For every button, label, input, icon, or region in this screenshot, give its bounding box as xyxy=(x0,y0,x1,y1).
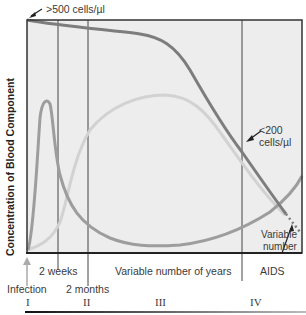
label-variable-line1: Variable xyxy=(261,229,297,241)
label-2-months: 2 months xyxy=(66,283,109,295)
stage-3: III xyxy=(155,296,166,308)
label-200-line2: cells/µl xyxy=(259,136,291,148)
label-variable-line2: number xyxy=(263,241,297,253)
label-2-weeks: 2 weeks xyxy=(39,265,78,277)
label-years: Variable number of years xyxy=(115,265,232,277)
stage-4: IV xyxy=(250,296,262,308)
infection-arrow-icon xyxy=(23,257,31,286)
bottom-rule xyxy=(25,311,306,313)
label-aids: AIDS xyxy=(260,265,285,277)
y-axis-label: Concentration of Blood Component xyxy=(4,78,16,256)
label-200-line1: <200 xyxy=(259,124,283,136)
label-infection: Infection xyxy=(7,283,47,295)
stage-2: II xyxy=(83,296,90,308)
label-500-cells: >500 cells/µl xyxy=(46,3,105,15)
stage-1: I xyxy=(26,296,30,308)
arrow-500-icon xyxy=(29,9,42,18)
